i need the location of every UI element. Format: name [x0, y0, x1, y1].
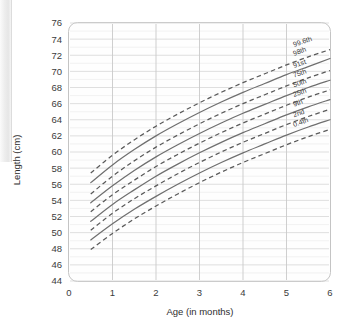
x-tick-label: 4 [240, 287, 245, 298]
y-tick-label: 52 [51, 211, 62, 222]
x-tick-label: 0 [66, 287, 71, 298]
x-tick-label: 3 [197, 287, 202, 298]
growth-chart-figure: 99.6th98th91st75th50th25th9th2nd0.4th 44… [0, 0, 352, 326]
y-tick-label: 66 [51, 98, 62, 109]
x-axis-tick-labels: 0123456 [66, 287, 332, 298]
y-tick-label: 50 [51, 227, 62, 238]
y-tick-label: 68 [51, 82, 62, 93]
x-tick-label: 1 [110, 287, 115, 298]
y-tick-label: 62 [51, 130, 62, 141]
y-tick-label: 76 [51, 17, 62, 28]
y-axis-tick-labels: 4446485052545658606264666870727476 [51, 17, 62, 286]
y-tick-label: 46 [51, 259, 62, 270]
growth-chart-svg: 99.6th98th91st75th50th25th9th2nd0.4th 44… [0, 0, 352, 326]
y-axis-title: Length (cm) [11, 135, 22, 186]
y-tick-label: 48 [51, 243, 62, 254]
y-tick-label: 72 [51, 50, 62, 61]
y-tick-label: 56 [51, 179, 62, 190]
x-tick-label: 5 [284, 287, 289, 298]
y-tick-label: 44 [51, 275, 62, 286]
x-axis-title: Age (in months) [166, 306, 233, 317]
y-tick-label: 58 [51, 163, 62, 174]
y-tick-label: 54 [51, 195, 62, 206]
y-tick-label: 74 [51, 34, 62, 45]
y-tick-label: 60 [51, 146, 62, 157]
y-tick-label: 70 [51, 66, 62, 77]
x-tick-label: 6 [327, 287, 332, 298]
x-tick-label: 2 [153, 287, 158, 298]
y-tick-label: 64 [51, 114, 62, 125]
